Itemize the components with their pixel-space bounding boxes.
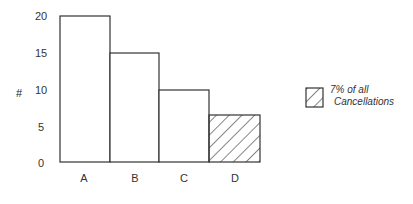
bar-c <box>159 90 209 162</box>
y-tick: 5 <box>38 121 44 133</box>
legend-label-line1: 7% of all <box>330 84 394 96</box>
x-tick: A <box>74 172 94 184</box>
legend-swatch <box>306 88 323 107</box>
x-tick: D <box>225 172 245 184</box>
legend-label-line2: Cancellations <box>330 96 394 108</box>
bar-b <box>110 53 159 162</box>
y-tick: 20 <box>35 10 47 22</box>
y-axis-label: # <box>16 87 22 99</box>
legend: 7% of all Cancellations <box>330 84 394 108</box>
x-tick: C <box>174 172 194 184</box>
bar-d <box>209 115 260 162</box>
bar-a <box>60 16 110 162</box>
x-tick: B <box>125 172 145 184</box>
y-tick: 10 <box>35 84 47 96</box>
y-tick: 0 <box>38 157 44 169</box>
y-tick: 15 <box>35 47 47 59</box>
